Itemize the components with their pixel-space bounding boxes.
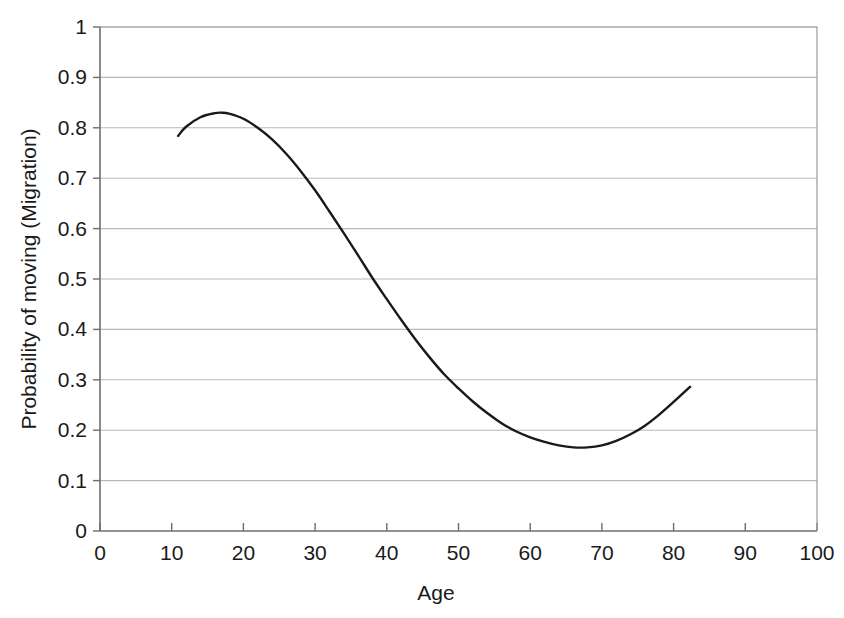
y-tick-label: 0.3 <box>58 368 87 391</box>
y-tick-label: 0.8 <box>58 116 87 139</box>
x-tick-label: 10 <box>160 541 183 564</box>
x-tick-label: 60 <box>519 541 542 564</box>
y-axis-tick-labels: 00.10.20.30.40.50.60.70.80.91 <box>58 15 88 542</box>
x-tick-label: 70 <box>590 541 613 564</box>
y-tick-label: 0.9 <box>58 65 87 88</box>
x-tick-label: 0 <box>94 541 106 564</box>
y-axis-ticks <box>93 27 100 531</box>
y-tick-label: 1 <box>75 15 87 38</box>
x-tick-label: 40 <box>375 541 398 564</box>
grid-lines <box>100 27 817 481</box>
y-tick-label: 0.2 <box>58 418 87 441</box>
x-tick-label: 30 <box>303 541 326 564</box>
y-tick-label: 0.7 <box>58 166 87 189</box>
x-tick-label: 50 <box>447 541 470 564</box>
y-tick-label: 0.4 <box>58 317 88 340</box>
y-tick-label: 0 <box>75 519 87 542</box>
migration-probability-curve <box>178 113 690 448</box>
x-tick-label: 100 <box>799 541 834 564</box>
x-tick-label: 90 <box>734 541 757 564</box>
x-axis-tick-labels: 0102030405060708090100 <box>94 541 834 564</box>
x-tick-label: 80 <box>662 541 685 564</box>
x-axis-title: Age <box>417 581 454 604</box>
x-axis-ticks <box>100 523 817 531</box>
chart-figure: 00.10.20.30.40.50.60.70.80.91 0102030405… <box>0 0 844 618</box>
x-tick-label: 20 <box>232 541 255 564</box>
y-axis-title: Probability of moving (Migration) <box>17 128 40 429</box>
y-tick-label: 0.1 <box>58 469 87 492</box>
probability-of-moving-line-chart: 00.10.20.30.40.50.60.70.80.91 0102030405… <box>0 0 844 618</box>
y-tick-label: 0.5 <box>58 267 87 290</box>
y-tick-label: 0.6 <box>58 217 87 240</box>
